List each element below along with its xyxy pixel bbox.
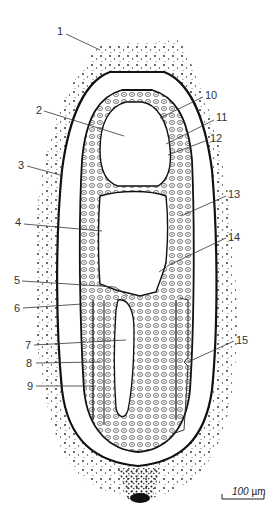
embryo-section-figure bbox=[0, 0, 277, 524]
label-1: 1 bbox=[57, 26, 63, 37]
label-10: 10 bbox=[205, 90, 217, 101]
label-11: 11 bbox=[216, 112, 227, 123]
label-5: 5 bbox=[14, 275, 20, 286]
scale-unit: µm bbox=[251, 486, 265, 497]
label-15: 15 bbox=[236, 335, 248, 346]
label-7: 7 bbox=[25, 340, 31, 351]
label-8: 8 bbox=[26, 358, 32, 369]
scale-value: 100 bbox=[232, 486, 249, 497]
scale-bar-label: 100 µm bbox=[232, 486, 266, 497]
label-2: 2 bbox=[36, 105, 42, 116]
label-13: 13 bbox=[228, 189, 240, 200]
label-4: 4 bbox=[15, 217, 21, 228]
label-12: 12 bbox=[210, 133, 222, 144]
leader-line-1 bbox=[66, 34, 100, 50]
embryo-wall bbox=[80, 90, 194, 452]
label-14: 14 bbox=[228, 232, 240, 243]
label-9: 9 bbox=[27, 381, 33, 392]
label-6: 6 bbox=[14, 303, 20, 314]
label-3: 3 bbox=[18, 160, 24, 171]
